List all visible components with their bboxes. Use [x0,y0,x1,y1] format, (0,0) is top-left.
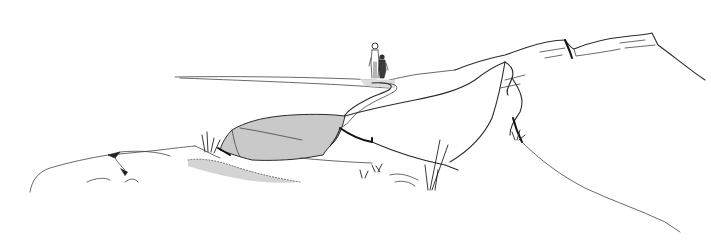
right-rock-ridge [455,33,705,232]
plateau [175,70,455,88]
gravel-patch [188,159,300,183]
illustration-canvas [0,0,711,245]
two-figures [369,43,388,78]
rock-landscape-drawing [0,0,711,245]
left-rocks [30,146,220,192]
